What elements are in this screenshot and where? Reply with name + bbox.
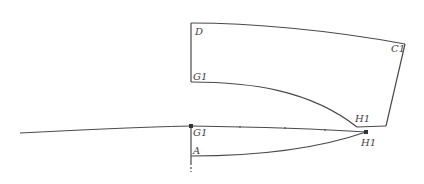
label-g1-top: G1 [193,71,207,82]
edge-d-c1 [191,23,405,44]
edge-h1-short [357,126,386,127]
label-c1: C1 [391,43,405,54]
tick-mark [239,126,241,128]
tick-mark [324,129,326,131]
edge-c1-h1 [386,44,405,126]
label-g1-bottom: G1 [193,127,207,138]
label-h1-upper: H1 [354,113,370,124]
upper-pattern-piece [191,23,405,127]
point-h1 [364,130,368,134]
pattern-diagram: D C1 G1 H1 G1 A H1 [0,0,424,184]
curve-g1-h1 [191,82,357,127]
label-a: A [192,145,200,156]
label-d: D [194,26,203,37]
curve-a-h1 [191,132,366,156]
label-h1-lower: H1 [360,137,376,148]
extended-baseline [20,126,191,133]
tick-mark [284,127,286,129]
line-g1-h1 [191,126,366,132]
